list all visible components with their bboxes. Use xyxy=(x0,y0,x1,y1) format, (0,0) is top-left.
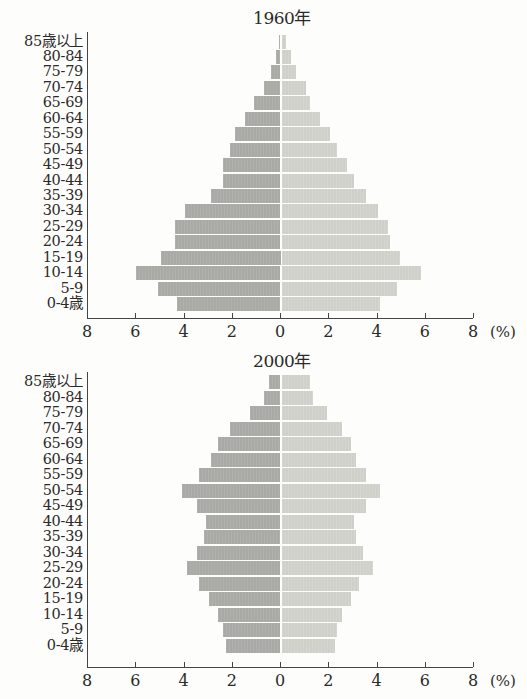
bar-left xyxy=(197,546,281,560)
bar-left xyxy=(218,608,280,622)
bar-right xyxy=(282,608,342,622)
bar-right xyxy=(282,639,335,653)
bar-right xyxy=(282,499,366,513)
bar-right xyxy=(282,406,327,420)
x-tick-label: 8 xyxy=(458,671,488,690)
x-tick-label: 2 xyxy=(313,671,343,690)
age-label: 85歳以上 xyxy=(24,374,83,389)
age-label: 0-4歳 xyxy=(47,638,83,653)
bar-right xyxy=(282,391,313,405)
bar-left xyxy=(204,530,281,544)
age-label: 30-34 xyxy=(43,545,83,560)
age-label: 25-29 xyxy=(43,560,83,575)
bar-right xyxy=(282,546,363,560)
bar-left xyxy=(206,515,280,529)
bar-left xyxy=(199,577,280,591)
bar-right xyxy=(282,484,380,498)
age-label: 60-64 xyxy=(43,452,83,467)
bar-left xyxy=(209,592,281,606)
age-label: 45-49 xyxy=(43,498,83,513)
age-label: 70-74 xyxy=(43,421,83,436)
bar-left xyxy=(182,484,280,498)
age-label: 20-24 xyxy=(43,576,83,591)
bar-left xyxy=(218,437,280,451)
bar-left xyxy=(187,561,280,575)
chart-title: 2000年 xyxy=(0,347,527,372)
pyramid-2000: 2000年 85歳以上80-8475-7970-7465-6960-6455-5… xyxy=(0,0,527,699)
age-label: 75-79 xyxy=(43,405,83,420)
bar-left xyxy=(197,499,281,513)
x-tick xyxy=(328,662,329,667)
y-axis xyxy=(87,372,88,667)
age-label: 35-39 xyxy=(43,529,83,544)
bar-right xyxy=(282,468,366,482)
age-label: 50-54 xyxy=(43,483,83,498)
x-axis xyxy=(87,667,473,668)
x-tick xyxy=(184,662,185,667)
bar-left xyxy=(264,391,280,405)
x-tick xyxy=(232,662,233,667)
x-tick xyxy=(377,662,378,667)
bar-left xyxy=(250,406,281,420)
age-label: 80-84 xyxy=(43,390,83,405)
bar-left xyxy=(226,639,281,653)
age-label: 5-9 xyxy=(61,622,83,637)
x-tick xyxy=(473,662,474,667)
x-tick xyxy=(425,662,426,667)
x-tick xyxy=(87,662,88,667)
x-tick-label: 6 xyxy=(120,671,150,690)
age-label: 10-14 xyxy=(43,607,83,622)
unit-label: (%) xyxy=(490,672,516,690)
bar-right xyxy=(282,623,337,637)
x-tick-label: 2 xyxy=(217,671,247,690)
bar-right xyxy=(282,561,373,575)
bar-right xyxy=(282,577,359,591)
x-tick-label: 8 xyxy=(72,671,102,690)
bar-left xyxy=(211,453,280,467)
x-tick-label: 6 xyxy=(410,671,440,690)
x-tick xyxy=(135,662,136,667)
bar-left xyxy=(199,468,280,482)
bar-left xyxy=(269,375,281,389)
x-tick-label: 0 xyxy=(265,671,295,690)
x-tick-label: 4 xyxy=(362,671,392,690)
age-label: 40-44 xyxy=(43,514,83,529)
age-label: 55-59 xyxy=(43,467,83,482)
bar-right xyxy=(282,375,310,389)
bar-left xyxy=(230,422,280,436)
age-label: 65-69 xyxy=(43,436,83,451)
x-tick-label: 4 xyxy=(169,671,199,690)
bar-right xyxy=(282,530,356,544)
bar-right xyxy=(282,515,354,529)
bar-left xyxy=(223,623,280,637)
bar-right xyxy=(282,592,351,606)
bar-right xyxy=(282,453,356,467)
x-tick xyxy=(280,662,281,667)
bar-right xyxy=(282,437,351,451)
age-label: 15-19 xyxy=(43,591,83,606)
bar-right xyxy=(282,422,342,436)
